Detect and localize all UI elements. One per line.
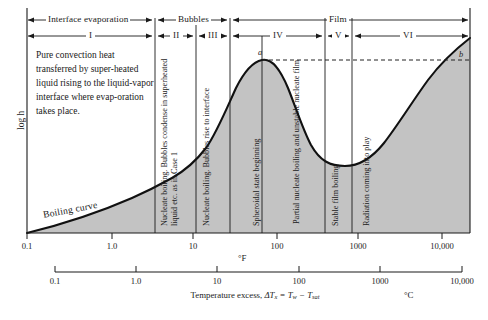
celsius-unit-label: °C — [404, 290, 413, 300]
region-two-description: Nucleate boiling. Bubbles condense in su… — [160, 40, 180, 226]
celsius-ticks — [55, 266, 462, 272]
fahrenheit-tick-5: 10,000 — [430, 241, 454, 251]
celsius-tick-5: 10,000 — [450, 276, 474, 286]
region-four-description: Partial nucleate boiling and unstable nu… — [292, 28, 302, 224]
point-a-label: a — [258, 48, 262, 57]
band-label-film: Film — [327, 14, 349, 25]
fahrenheit-tick-0: 0.1 — [22, 241, 33, 251]
fahrenheit-ticks — [27, 233, 442, 239]
celsius-tick-1: 1.0 — [131, 276, 142, 286]
caption-minus-tsat: − T — [297, 290, 312, 300]
region-three-description: Nucleate boiling. Bubbles rise to interf… — [202, 40, 212, 226]
caption-equals-tw: = T — [277, 290, 292, 300]
region-five-description: Stable film boiling — [331, 106, 341, 226]
tsat-subscript: sat — [312, 293, 319, 300]
x-axis-caption: Temperature excess, ΔTx = Tw − Tsat — [191, 290, 320, 300]
x-axis-caption-prefix: Temperature excess, — [191, 290, 265, 300]
region-numeral-VI: VI — [400, 30, 416, 41]
region-one-description: Pure convection heat transferred by supe… — [36, 48, 154, 119]
celsius-tick-2: 10 — [213, 276, 222, 286]
point-b-label: b — [459, 50, 463, 59]
delta-t-symbol: ΔT — [264, 290, 274, 300]
fahrenheit-unit-label: °F — [238, 253, 246, 263]
celsius-tick-3: 100 — [293, 276, 306, 286]
y-axis-label: log h — [16, 111, 26, 130]
celsius-tick-4: 1000 — [371, 276, 388, 286]
region-six-description: Radiation coming into play — [362, 96, 372, 226]
band-label-interface-evaporation: Interface evaporation — [46, 14, 130, 25]
region-numeral-V: V — [332, 30, 345, 41]
band-label-bubbles: Bubbles — [176, 14, 211, 25]
fahrenheit-tick-4: 1000 — [349, 241, 366, 251]
celsius-tick-0: 0.1 — [50, 276, 61, 286]
fahrenheit-tick-3: 100 — [271, 241, 284, 251]
fahrenheit-tick-1: 1.0 — [107, 241, 118, 251]
region-numeral-I: I — [86, 30, 95, 41]
region-numeral-IV: IV — [270, 30, 286, 41]
spheroidal-state-label: Spheroidal state beginning — [252, 76, 262, 226]
boiling-curve-figure: Interface evaporation Bubbles Film I II … — [0, 0, 488, 320]
fahrenheit-tick-2: 10 — [189, 241, 198, 251]
